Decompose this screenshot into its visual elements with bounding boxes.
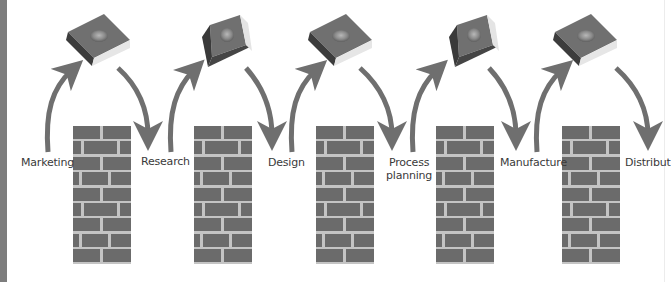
cutting-insert-icon xyxy=(308,14,372,66)
stage-unit-1 xyxy=(47,14,148,152)
stage-label-design: Design xyxy=(268,156,305,169)
cutting-insert-icon xyxy=(66,14,130,66)
stage-unit-2 xyxy=(170,15,272,152)
stage-label-marketing: Marketing xyxy=(21,156,74,169)
stage-label-research: Research xyxy=(141,155,190,168)
curved-arrow-icon xyxy=(118,68,148,136)
curved-arrow-icon xyxy=(47,70,72,152)
stage-label-process-planning: Process planning xyxy=(386,156,432,182)
curved-arrow-icon xyxy=(616,68,648,136)
cutting-insert-icon xyxy=(202,15,252,67)
stage-label-distribution: Distribut xyxy=(625,156,671,169)
curved-arrow-icon xyxy=(170,70,194,152)
curved-arrow-icon xyxy=(360,68,392,136)
cutting-insert-icon xyxy=(449,15,499,67)
stage-label-line-2: planning xyxy=(386,169,432,182)
curved-arrow-icon xyxy=(536,70,562,152)
stage-unit-5 xyxy=(536,14,648,152)
stage-unit-3 xyxy=(291,14,392,152)
curved-arrow-icon xyxy=(489,68,516,136)
curved-arrow-icon xyxy=(246,68,272,136)
cutting-insert-icon xyxy=(553,14,617,66)
curved-arrow-icon xyxy=(291,70,316,152)
stage-label-manufacture: Manufacture xyxy=(500,156,567,169)
curved-arrow-icon xyxy=(412,70,437,152)
stage-unit-4 xyxy=(412,15,516,152)
stage-label-line-1: Process xyxy=(386,156,432,169)
